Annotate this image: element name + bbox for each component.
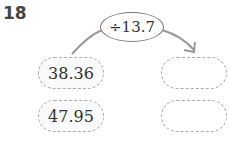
- problem-number: 18: [3, 3, 27, 23]
- input-box-1: 38.36: [38, 57, 104, 89]
- operation-oval: ÷13.7: [100, 12, 164, 42]
- input-box-2: 47.95: [38, 100, 104, 132]
- answer-box-2[interactable]: [161, 100, 227, 132]
- answer-box-1[interactable]: [161, 57, 227, 89]
